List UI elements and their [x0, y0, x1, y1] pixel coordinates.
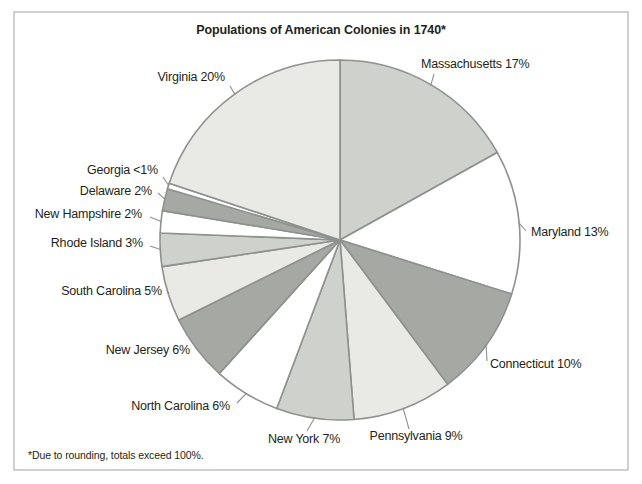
- leader-line-north-carolina: [237, 393, 247, 403]
- leader-line-connecticut: [486, 344, 487, 361]
- leader-line-georgia: [163, 177, 169, 186]
- leader-line-new-hampshire: [150, 217, 162, 222]
- leader-line-virginia: [230, 86, 235, 95]
- slice-label-massachusetts: Massachusetts 17%: [421, 57, 530, 71]
- slice-label-maryland: Maryland 13%: [531, 225, 609, 239]
- leader-line-pennsylvania: [403, 408, 409, 429]
- slice-label-new-york: New York 7%: [268, 432, 340, 446]
- slice-label-rhode-island: Rhode Island 3%: [51, 236, 143, 250]
- chart-title: Populations of American Colonies in 1740…: [196, 23, 446, 37]
- pie-chart-svg: Populations of American Colonies in 1740…: [0, 0, 642, 484]
- leader-line-new-york: [307, 417, 315, 431]
- slice-label-new-jersey: New Jersey 6%: [106, 343, 190, 357]
- leader-line-massachusetts: [431, 74, 434, 86]
- slice-label-connecticut: Connecticut 10%: [490, 357, 582, 371]
- slice-label-new-hampshire: New Hampshire 2%: [35, 207, 142, 221]
- slice-label-georgia: Georgia <1%: [87, 163, 158, 177]
- slice-label-south-carolina: South Carolina 5%: [61, 284, 162, 298]
- slice-label-north-carolina: North Carolina 6%: [131, 399, 230, 413]
- slice-label-virginia: Virginia 20%: [157, 70, 225, 84]
- chart-panel: Populations of American Colonies in 1740…: [0, 0, 642, 484]
- footnote: *Due to rounding, totals exceed 100%.: [28, 449, 204, 461]
- pie-slices: [160, 60, 520, 420]
- slice-label-pennsylvania: Pennsylvania 9%: [370, 429, 463, 443]
- slice-label-delaware: Delaware 2%: [80, 184, 152, 198]
- leader-line-delaware: [158, 193, 166, 200]
